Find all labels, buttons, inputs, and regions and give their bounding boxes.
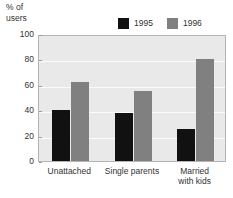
plot-area	[38, 35, 226, 162]
y-axis-tick-mark	[39, 162, 42, 163]
y-axis-tick-label: 40	[4, 106, 34, 115]
legend-item-1996: 1996	[167, 18, 202, 29]
bar-1995-2	[177, 129, 195, 161]
y-axis-tick-label: 0	[4, 157, 34, 166]
legend-swatch-1996	[167, 18, 178, 29]
y-axis-title: % of users	[6, 2, 62, 23]
bar-chart-figure: % of users 1995 1996 020406080100Unattac…	[0, 0, 233, 198]
legend-label-1996: 1996	[183, 18, 202, 29]
y-axis-tick-label: 60	[4, 81, 34, 90]
legend-swatch-1995	[118, 18, 129, 29]
x-axis-tick-label: Married with kids	[150, 166, 233, 186]
bar-1995-0	[52, 110, 70, 161]
legend-label-1995: 1995	[134, 18, 153, 29]
legend-item-1995: 1995	[118, 18, 153, 29]
bar-1996-0	[71, 82, 89, 161]
bar-1996-2	[196, 59, 214, 161]
bar-1996-1	[134, 91, 152, 161]
y-axis-tick-mark	[39, 137, 42, 138]
y-axis-tick-label: 20	[4, 132, 34, 141]
chart-legend: 1995 1996	[118, 18, 202, 29]
y-axis-tick-mark	[39, 86, 42, 87]
y-axis-tick-label: 80	[4, 55, 34, 64]
bar-1995-1	[115, 113, 133, 161]
y-axis-tick-mark	[39, 111, 42, 112]
y-axis-tick-mark	[39, 60, 42, 61]
plot-inner	[39, 36, 225, 161]
y-axis-tick-label: 100	[4, 30, 34, 39]
y-axis-tick-mark	[39, 35, 42, 36]
